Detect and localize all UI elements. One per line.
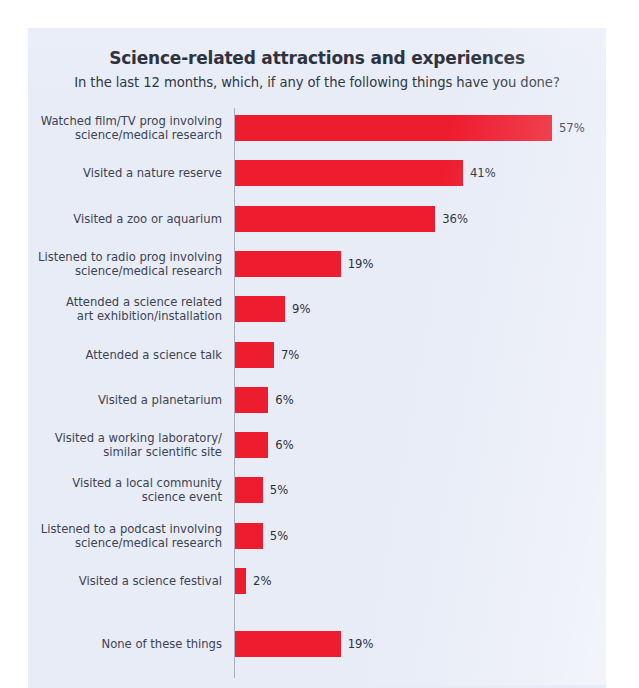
bar-value-label: 19% [348,637,374,651]
bar-value-label: 57% [559,121,585,135]
bar [235,160,463,186]
bar-category-label: Visited a working laboratory/ similar sc… [32,431,222,459]
bar-row: Visited a nature reserve41% [28,160,606,186]
bar-category-label: Visited a science festival [32,574,222,588]
bar-value-label: 2% [253,574,271,588]
bar-value-label: 9% [292,302,310,316]
bar-value-label: 6% [275,438,293,452]
bar [235,206,435,232]
chart-panel: Science-related attractions and experien… [28,28,606,688]
bar-value-label: 36% [442,212,468,226]
bar-category-label: Listened to a podcast involving science/… [32,522,222,550]
bar [235,631,341,657]
bar-value-label: 5% [270,483,288,497]
bar-value-label: 7% [281,348,299,362]
bar-row: Visited a zoo or aquarium36% [28,206,606,232]
bar [235,115,552,141]
bar-value-label: 6% [275,393,293,407]
bar-category-label: Attended a science talk [32,348,222,362]
bar [235,342,274,368]
bar-row: Visited a working laboratory/ similar sc… [28,432,606,458]
bar-category-label: Attended a science related art exhibitio… [32,295,222,323]
bar-value-label: 41% [470,166,496,180]
bar-row: Listened to radio prog involving science… [28,251,606,277]
bar [235,568,246,594]
bar-row: None of these things19% [28,631,606,657]
bar-category-label: Watched film/TV prog involving science/m… [32,114,222,142]
bar-row: Visited a planetarium6% [28,387,606,413]
bar-category-label: Visited a nature reserve [32,166,222,180]
bar [235,251,341,277]
bar-category-label: None of these things [32,637,222,651]
bar-value-label: 19% [348,257,374,271]
bar-row: Attended a science related art exhibitio… [28,296,606,322]
bar-chart-plot: Watched film/TV prog involving science/m… [28,28,606,688]
bar [235,523,263,549]
bar [235,432,268,458]
bar [235,296,285,322]
bar-row: Visited a science festival2% [28,568,606,594]
bar-row: Visited a local community science event5… [28,477,606,503]
bar-category-label: Visited a planetarium [32,393,222,407]
bar-row: Attended a science talk7% [28,342,606,368]
bar-row: Watched film/TV prog involving science/m… [28,115,606,141]
bar-category-label: Visited a local community science event [32,476,222,504]
bar [235,387,268,413]
bar-category-label: Visited a zoo or aquarium [32,212,222,226]
bar [235,477,263,503]
bar-row: Listened to a podcast involving science/… [28,523,606,549]
bar-value-label: 5% [270,529,288,543]
bar-category-label: Listened to radio prog involving science… [32,250,222,278]
